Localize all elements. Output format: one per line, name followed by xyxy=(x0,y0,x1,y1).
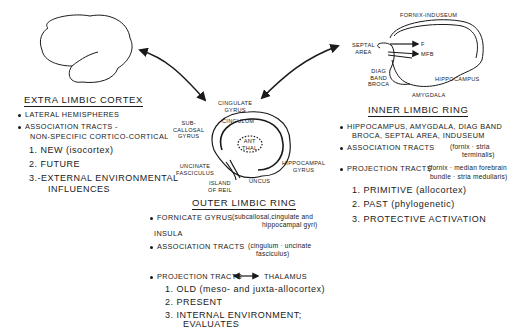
inner-limbic-heading: INNER LIMBIC RING xyxy=(368,104,468,117)
inner-limbic-item: 1. PRIMITIVE (allocortex) xyxy=(352,185,467,195)
subcallosal-gyrus-label: SUB-CALLOSALGYRUS xyxy=(173,120,204,140)
fornix-induseum-label: FORNIX-INDUSEUM xyxy=(400,12,457,19)
diag-band-broca-label: DIAGBANDBROCA xyxy=(368,68,389,88)
double-arrow-right xyxy=(262,46,338,98)
bullet-icon xyxy=(18,126,21,129)
outer-limbic-note: fasciculus) xyxy=(256,250,289,257)
outer-limbic-insula: INSULA xyxy=(154,229,183,238)
inner-limbic-note: bundle · stria medullaris) xyxy=(430,173,507,180)
hippocampus-label: HIPPOCAMPUS xyxy=(435,76,480,83)
cingulum-label: CINGULUM xyxy=(222,118,254,125)
outer-limbic-bullet: FORNICATE GYRUS xyxy=(150,213,233,222)
outer-limbic-bullet: PROJECTION TRACTS xyxy=(150,272,242,281)
outer-limbic-bullet: ASSOCIATION TRACTS xyxy=(150,242,245,251)
inner-limbic-bullet: HIPPOCAMPUS, AMYGDALA, DIAG BAND xyxy=(340,122,502,131)
bullet-icon xyxy=(340,147,343,150)
hippocampal-gyrus-label: HIPPOCAMPALGYRUS xyxy=(282,160,325,173)
inner-limbic-note: terminalis) xyxy=(462,151,495,158)
bullet-icon xyxy=(18,114,21,117)
outer-limbic-note: (cingulum · uncinate xyxy=(248,242,311,249)
inner-limbic-item: 3. PROTECTIVE ACTIVATION xyxy=(352,214,486,224)
bullet-icon xyxy=(150,217,153,220)
extra-limbic-heading: EXTRA LIMBIC CORTEX xyxy=(24,94,143,107)
outer-limbic-note: (subcallosal,cingulate and xyxy=(232,213,313,220)
extra-limbic-item-cont: INFLUENCES xyxy=(48,184,110,194)
outer-limbic-heading: OUTER LIMBIC RING xyxy=(192,197,296,210)
double-arrow-left xyxy=(140,50,205,100)
bullet-icon xyxy=(150,276,153,279)
inner-limbic-note: (fornix · median forebrain xyxy=(428,164,507,171)
outer-limbic-item: 2. PRESENT xyxy=(165,297,223,307)
uncus-label: UNCUS xyxy=(249,178,270,185)
thalamus-label: THALAMUS xyxy=(264,272,307,281)
outer-limbic-note: hippocampal gyri) xyxy=(262,221,317,228)
island-of-reil-label: ISLANDOF REIL xyxy=(208,180,232,193)
extra-limbic-bullet: ASSOCIATION TRACTS - xyxy=(18,122,118,131)
bullet-icon xyxy=(340,126,343,129)
bullet-icon xyxy=(340,168,343,171)
inner-limbic-bullet-cont: BROCA, SEPTAL AREA, INDUSEUM xyxy=(352,131,485,140)
uncinate-fasciculus-label: UNCINATEFASCICULUS xyxy=(176,163,214,176)
extra-limbic-item: 2. FUTURE xyxy=(29,159,80,169)
f-label: F xyxy=(421,41,425,48)
extra-limbic-item: 3.-EXTERNAL ENVIRONMENTAL xyxy=(29,173,179,183)
mfb-label: MFB xyxy=(421,51,434,58)
cingulate-gyrus-label: CINGULATEGYRUS xyxy=(218,100,252,113)
extra-limbic-bullet-cont: NON-SPECIFIC CORTICO-CORTICAL xyxy=(30,132,169,141)
lateral-brain-icon xyxy=(40,15,132,83)
inner-limbic-item: 2. PAST (phylogenetic) xyxy=(352,199,455,209)
outer-limbic-item: 1. OLD (meso- and juxta-allocortex) xyxy=(165,284,325,294)
amygdala-label: AMYGDALA xyxy=(412,92,446,99)
extra-limbic-bullet: LATERAL HEMISPHERES xyxy=(18,110,119,119)
inner-limbic-note: (fornix · stria xyxy=(450,143,490,150)
outer-limbic-item-cont: EVALUATES xyxy=(183,319,239,328)
ant-thal-label: ANTTHAL xyxy=(242,138,258,151)
extra-limbic-item: 1. NEW (isocortex) xyxy=(29,145,114,155)
septal-area-label: SEPTALAREA xyxy=(352,42,375,55)
inner-limbic-bullet: ASSOCIATION TRACTS xyxy=(340,143,435,152)
bullet-icon xyxy=(150,246,153,249)
inner-limbic-bullet: PROJECTION TRACTS xyxy=(340,164,432,173)
